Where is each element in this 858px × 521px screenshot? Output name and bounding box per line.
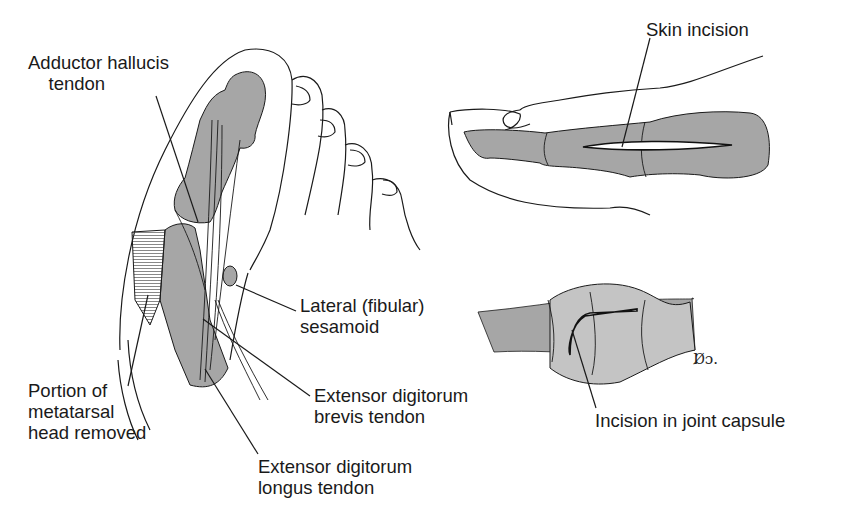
label-extensor-digitorum-brevis: Extensor digitorum brevis tendon — [314, 385, 468, 427]
label-portion-of-metatarsal-head-removed: Portion of metatarsal head removed — [28, 380, 146, 443]
removed-portion-hatch — [132, 230, 165, 325]
label-incision-joint-capsule: Incision in joint capsule — [595, 410, 785, 431]
artist-signature: Ɒ̸ɔ. — [693, 350, 718, 368]
label-skin-incision: Skin incision — [646, 19, 749, 40]
label-lateral-sesamoid: Lateral (fibular) sesamoid — [300, 295, 424, 337]
phalanx-bone — [174, 72, 265, 223]
metatarsal-bone — [160, 224, 228, 387]
label-adductor-hallucis-tendon: Adductor hallucis tendon — [28, 52, 169, 94]
label-extensor-digitorum-longus: Extensor digitorum longus tendon — [258, 456, 412, 498]
sesamoid-bone — [223, 266, 237, 286]
